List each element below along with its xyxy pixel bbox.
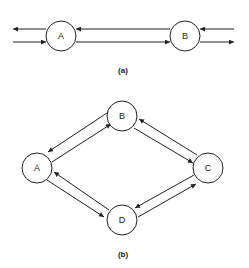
edge-b-A-D bbox=[47, 180, 104, 217]
node-b-B: B bbox=[107, 101, 137, 131]
network-diagram: A B (a) A B C bbox=[0, 0, 249, 268]
caption-a: (a) bbox=[118, 66, 128, 75]
edge-b-B-C bbox=[134, 128, 193, 163]
edge-b-D-A bbox=[54, 172, 109, 210]
node-b-A: A bbox=[22, 153, 52, 183]
diagram-b: A B C D (b) bbox=[22, 101, 223, 259]
node-label: D bbox=[119, 215, 126, 225]
node-a-A: A bbox=[46, 21, 76, 51]
node-b-C: C bbox=[193, 153, 223, 183]
diagram-a: A B (a) bbox=[13, 21, 234, 75]
node-b-D: D bbox=[107, 205, 137, 235]
node-a-B: B bbox=[170, 21, 200, 51]
node-label: A bbox=[58, 31, 64, 41]
edge-b-C-B bbox=[139, 119, 197, 155]
edge-b-C-D bbox=[135, 175, 194, 208]
node-label: B bbox=[182, 31, 188, 41]
node-label: C bbox=[205, 163, 212, 173]
node-label: B bbox=[119, 111, 125, 121]
edge-b-D-C bbox=[138, 184, 196, 217]
caption-b: (b) bbox=[118, 250, 129, 259]
node-label: A bbox=[34, 163, 40, 173]
